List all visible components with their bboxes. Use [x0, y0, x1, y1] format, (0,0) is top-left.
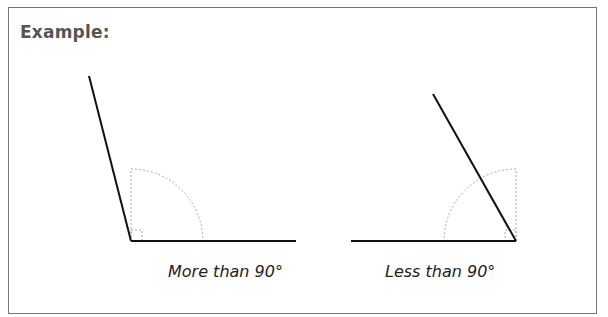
- obtuse-caption: More than 90°: [168, 262, 283, 281]
- obtuse-angle-diagram: [89, 76, 296, 241]
- acute-angle-diagram: [351, 94, 516, 241]
- right-angle-guide-arc: [131, 169, 203, 241]
- angle-diagrams: [0, 0, 608, 317]
- obtuse-ray: [89, 76, 131, 241]
- acute-ray: [433, 94, 516, 241]
- right-angle-marker: [131, 230, 142, 241]
- acute-caption: Less than 90°: [385, 262, 495, 281]
